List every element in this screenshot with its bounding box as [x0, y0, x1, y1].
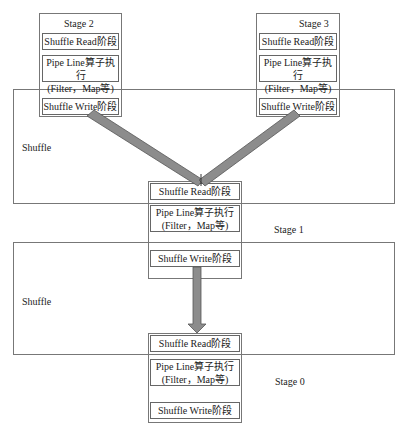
- arrows-layer: [0, 0, 406, 430]
- arrow-stage2-to-stage1: [87, 110, 203, 186]
- arrow-stage3-to-stage1: [199, 110, 300, 186]
- arrow-stage1-to-stage0: [188, 267, 206, 333]
